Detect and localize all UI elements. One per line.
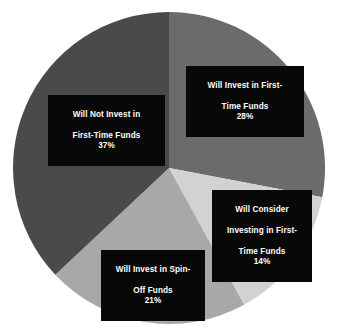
slice-label-value: 21% [106,296,200,307]
slice-label-text-line-1: Will Invest in Spin- [116,265,191,274]
slice-label-value: 14% [217,257,307,268]
slice-label-text-line-1: Will Invest in First- [208,81,283,90]
slice-label-text-line-2: First-Time Funds [73,131,141,140]
slice-label-value: 28% [191,112,299,123]
slice-label-text-line-1: Will Consider [235,205,289,214]
slice-label-text-line-2: Investing in First- [227,226,297,235]
slice-label-will-invest-first-time-funds: Will Invest in First- Time Funds 28% [186,66,304,137]
slice-label-text-line-2: Off Funds [133,286,173,295]
slice-label-will-consider-investing-first-time-funds: Will Consider Investing in First- Time F… [212,190,312,282]
slice-label-text-line-3: Time Funds [239,247,286,256]
pie-chart: Will Invest in First- Time Funds 28% Wil… [0,0,341,331]
slice-label-will-not-invest-first-time-funds: Will Not Invest in First-Time Funds 37% [48,95,165,166]
slice-label-text-line-2: Time Funds [222,102,269,111]
slice-label-will-invest-spin-off-funds: Will Invest in Spin- Off Funds 21% [101,250,205,321]
slice-label-text-line-1: Will Not Invest in [73,110,141,119]
slice-label-value: 37% [53,141,160,152]
